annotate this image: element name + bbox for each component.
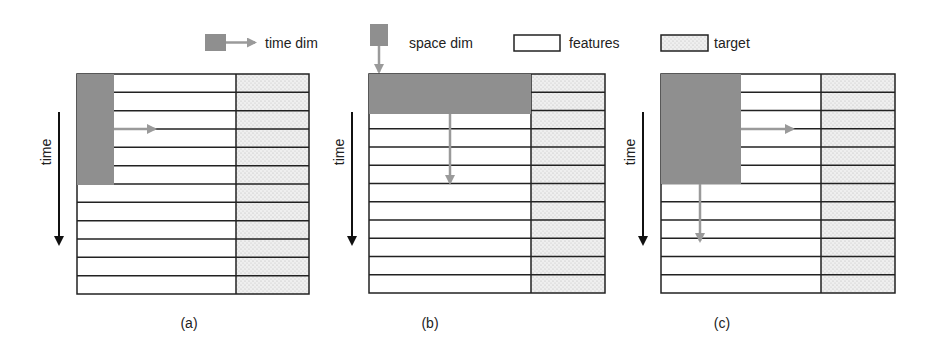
space-window <box>369 74 531 114</box>
legend-target-label: target <box>714 35 750 51</box>
panel-a-caption: (a) <box>180 315 197 331</box>
target-swatch <box>661 35 708 51</box>
legend-time-dim: time dim <box>205 34 318 51</box>
combined-window <box>661 74 741 184</box>
panel-b-caption: (b) <box>421 315 438 331</box>
time-axis-label: time <box>622 139 638 166</box>
panel-c: time (c) <box>622 74 895 331</box>
panel-c-caption: (c) <box>714 315 730 331</box>
diagram-canvas: time dim space dim features target time <box>0 0 935 348</box>
features-swatch <box>514 35 560 51</box>
legend-target: target <box>661 35 750 51</box>
legend-space-dim-label: space dim <box>409 35 473 51</box>
panel-a: time (a) <box>38 74 309 331</box>
panel-b: time (b) <box>331 74 605 331</box>
time-dim-swatch <box>205 34 226 51</box>
legend-space-dim: space dim <box>370 24 473 72</box>
time-axis-label: time <box>331 139 347 166</box>
legend-features: features <box>514 35 620 51</box>
time-axis-label: time <box>38 139 54 166</box>
legend-time-dim-label: time dim <box>265 35 318 51</box>
legend: time dim space dim features target <box>205 24 750 72</box>
time-window <box>77 74 114 185</box>
space-dim-swatch <box>370 24 388 46</box>
legend-features-label: features <box>569 35 620 51</box>
